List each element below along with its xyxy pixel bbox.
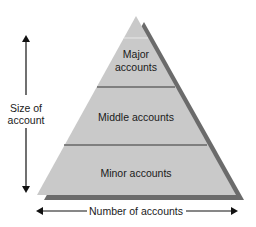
y-axis-label-1: Size of	[10, 102, 42, 114]
tier-major-label-1: Major	[123, 48, 150, 60]
tier-middle-label: Middle accounts	[98, 111, 174, 123]
y-axis-label-2: account	[8, 114, 45, 126]
tier-major-label-2: accounts	[115, 61, 157, 73]
x-axis-label: Number of accounts	[89, 205, 183, 217]
arrow-right-icon	[231, 207, 238, 215]
tier-minor-label: Minor accounts	[100, 167, 171, 179]
arrow-down-icon	[22, 186, 30, 193]
arrow-left-icon	[36, 207, 43, 215]
arrow-up-icon	[22, 35, 30, 42]
account-pyramid-diagram: Major accounts Middle accounts Minor acc…	[0, 0, 256, 227]
